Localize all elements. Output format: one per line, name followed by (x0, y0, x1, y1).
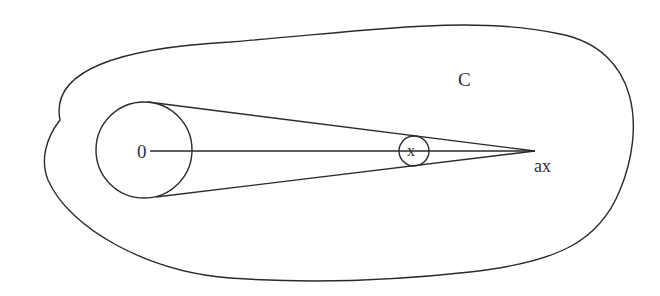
diagram-canvas: 0 x ax C (0, 0, 660, 296)
scaled-point-label: ax (534, 156, 551, 176)
origin-label: 0 (137, 141, 147, 162)
point-x-label: x (407, 142, 415, 159)
lower-tangent-line (156, 151, 535, 197)
region-label: C (458, 69, 471, 90)
convex-set-diagram: 0 x ax C (0, 0, 660, 296)
region-c-boundary (44, 25, 633, 281)
upper-tangent-line (148, 102, 535, 151)
